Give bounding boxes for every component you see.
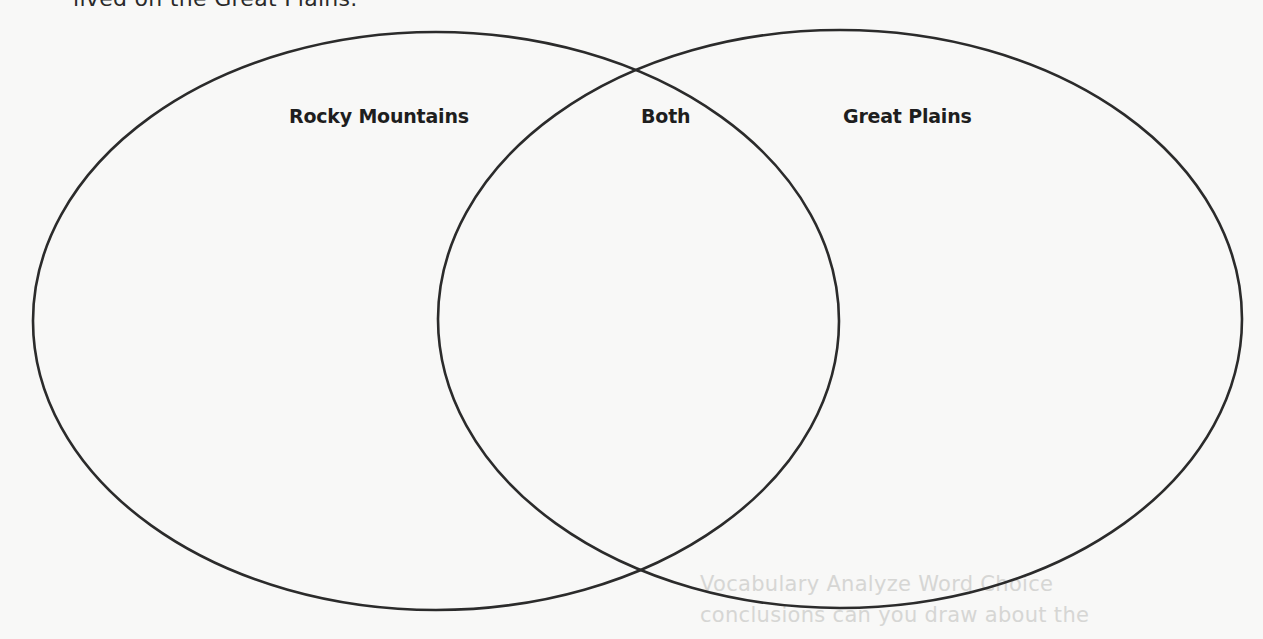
rocky-mountains-label: Rocky Mountains xyxy=(289,105,469,127)
great-plains-label: Great Plains xyxy=(843,105,972,127)
venn-diagram xyxy=(0,0,1263,639)
both-label: Both xyxy=(641,105,690,127)
worksheet-page: Vocabulary Analyze Word Choice conclusio… xyxy=(0,0,1263,639)
